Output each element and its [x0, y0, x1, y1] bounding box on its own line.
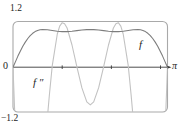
plot-canvas — [0, 0, 182, 133]
f-curve-label: f — [139, 39, 142, 50]
function-plot-figure: 1.2 0 −1.2 π f f ″ — [0, 0, 182, 133]
x-max-pi-label: π — [172, 61, 177, 71]
y-min-label: −1.2 — [1, 114, 18, 124]
y-max-label: 1.2 — [10, 4, 22, 14]
f-double-prime-curve-label: f ″ — [33, 77, 43, 88]
x-axis-arrowhead-icon — [167, 66, 172, 69]
f-curve — [13, 30, 168, 68]
origin-label: 0 — [3, 61, 8, 71]
